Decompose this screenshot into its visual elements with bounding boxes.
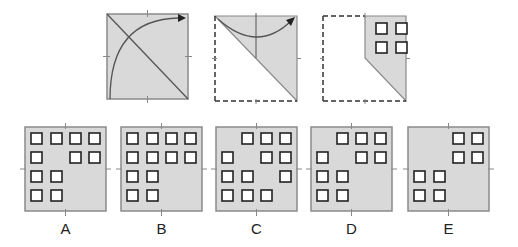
punched-hole-icon xyxy=(222,171,233,182)
punched-hole-icon xyxy=(375,133,386,144)
punched-hole-icon xyxy=(434,171,445,182)
punched-hole-icon xyxy=(261,152,272,163)
punched-hole-icon xyxy=(242,190,253,201)
punched-hole-icon xyxy=(147,152,158,163)
option-label: C xyxy=(242,220,272,237)
unfolded-paper-icon xyxy=(216,127,298,212)
punched-hole-icon xyxy=(317,152,328,163)
option-label: A xyxy=(51,220,81,237)
punched-hole-icon xyxy=(89,152,100,163)
punched-hole-icon xyxy=(147,171,158,182)
punched-hole-icon xyxy=(337,171,348,182)
step-3-punched xyxy=(323,16,407,102)
unfolded-paper-icon xyxy=(408,127,490,212)
punched-hole-icon xyxy=(337,190,348,201)
punched-hole-icon xyxy=(434,190,445,201)
punched-hole-icon xyxy=(414,171,425,182)
option-a[interactable] xyxy=(25,127,107,212)
punched-hole-icon xyxy=(31,152,42,163)
punched-hole-icon xyxy=(166,152,177,163)
punched-hole-icon xyxy=(317,190,328,201)
unfolded-paper-icon xyxy=(311,127,393,212)
punched-hole-icon xyxy=(147,133,158,144)
punched-hole-icon xyxy=(185,133,196,144)
punched-hole-icon xyxy=(396,42,407,53)
unfolded-paper-icon xyxy=(121,127,203,212)
punched-hole-icon xyxy=(356,152,367,163)
punched-hole-icon xyxy=(317,171,328,182)
option-label: B xyxy=(147,220,177,237)
punched-hole-icon xyxy=(51,133,62,144)
punched-hole-icon xyxy=(242,133,253,144)
punched-hole-icon xyxy=(31,133,42,144)
option-label: D xyxy=(337,220,367,237)
punched-hole-icon xyxy=(453,152,464,163)
punched-hole-icon xyxy=(396,23,407,34)
option-e[interactable] xyxy=(408,127,490,212)
punched-hole-icon xyxy=(31,171,42,182)
punched-hole-icon xyxy=(222,190,233,201)
punched-hole-icon xyxy=(166,133,177,144)
punched-hole-icon xyxy=(185,152,196,163)
punched-hole-icon xyxy=(472,133,483,144)
punched-hole-icon xyxy=(280,171,291,182)
punched-hole-icon xyxy=(51,171,62,182)
punched-hole-icon xyxy=(127,190,138,201)
punched-hole-icon xyxy=(222,152,233,163)
punched-hole-icon xyxy=(70,152,81,163)
punched-paper-icon xyxy=(323,16,407,102)
punched-hole-icon xyxy=(337,133,348,144)
punched-hole-icon xyxy=(31,190,42,201)
option-d[interactable] xyxy=(311,127,393,212)
punched-hole-icon xyxy=(414,190,425,201)
punched-hole-icon xyxy=(280,152,291,163)
punched-hole-icon xyxy=(261,133,272,144)
punched-hole-icon xyxy=(356,133,367,144)
punched-hole-icon xyxy=(147,190,158,201)
unfolded-paper-icon xyxy=(25,127,107,212)
punched-hole-icon xyxy=(242,171,253,182)
punched-hole-icon xyxy=(376,42,387,53)
option-c[interactable] xyxy=(216,127,298,212)
punched-hole-icon xyxy=(127,171,138,182)
punched-hole-icon xyxy=(51,190,62,201)
punched-hole-icon xyxy=(89,133,100,144)
option-label: E xyxy=(434,220,464,237)
punched-hole-icon xyxy=(70,133,81,144)
folded-triangle-icon xyxy=(215,16,298,102)
punched-hole-icon xyxy=(261,190,272,201)
punched-hole-icon xyxy=(280,133,291,144)
punched-hole-icon xyxy=(376,23,387,34)
option-b[interactable] xyxy=(121,127,203,212)
punched-hole-icon xyxy=(472,152,483,163)
paper-square-icon xyxy=(107,14,189,100)
step-1-fold-diagonal xyxy=(107,14,189,100)
punched-hole-icon xyxy=(375,152,386,163)
punched-hole-icon xyxy=(453,133,464,144)
punched-hole-icon xyxy=(127,133,138,144)
step-2-folded-triangle xyxy=(215,16,298,102)
punched-hole-icon xyxy=(127,152,138,163)
